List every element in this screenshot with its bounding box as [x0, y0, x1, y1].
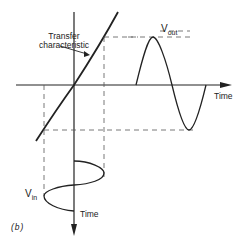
label-pointer-head [84, 51, 90, 57]
transfer-label-line2: characteristic [28, 41, 100, 50]
time-arrow-right [220, 82, 232, 88]
vout-label: Vout [161, 24, 177, 36]
vin-sub: in [32, 194, 37, 201]
time-arrow-down [71, 224, 77, 236]
figure-label: (b) [11, 223, 24, 232]
time-label-right: Time [214, 92, 233, 101]
dashed-guides [44, 31, 196, 196]
vin-label: Vin [25, 189, 37, 201]
time-label-bottom: Time [80, 210, 99, 219]
transfer-label: Transfer characteristic [28, 32, 100, 49]
vout-v: V [161, 23, 168, 34]
vout-sub: out [168, 29, 178, 36]
vout-waveform [136, 37, 206, 130]
vin-v: V [25, 188, 32, 199]
